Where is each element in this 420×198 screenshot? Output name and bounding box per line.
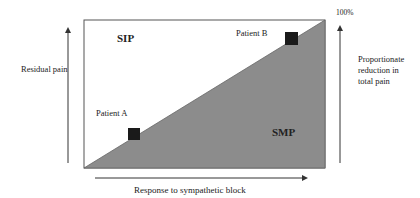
patient-a-marker [128, 128, 140, 140]
right-axis-label-line1: Proportionate [358, 54, 404, 64]
patient-b-marker [285, 32, 298, 45]
hundred-percent-label: 100% [336, 8, 354, 18]
residual-pain-label: Residual pain [21, 64, 68, 74]
sip-label: SIP [117, 33, 134, 43]
patient-a-label: Patient A [96, 108, 127, 118]
right-axis-label-line3: total pain [358, 76, 390, 86]
response-axis-label: Response to sympathetic block [134, 185, 246, 195]
smp-label: SMP [272, 127, 295, 137]
patient-b-label: Patient B [236, 28, 267, 38]
diagram-canvas [0, 0, 420, 198]
right-axis-label-line2: reduction in [358, 65, 399, 75]
